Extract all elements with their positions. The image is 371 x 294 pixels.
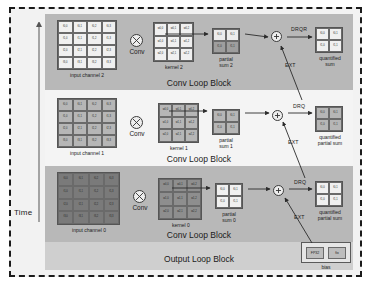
- matrix-cell: f0,0: [316, 107, 329, 119]
- matrix-cell: w2,0: [154, 48, 167, 61]
- quantified-partial-sum-caption-1: quantified partial sum: [305, 134, 355, 147]
- matrix-cell: f1,0: [316, 194, 329, 206]
- bias-box: FP32 fix: [301, 242, 351, 263]
- matrix-cell: w2,0: [159, 129, 172, 142]
- matrix-cell: f0,0: [213, 110, 226, 122]
- matrix-cell: w0,1: [173, 179, 187, 192]
- matrix-cell: w0,2: [187, 179, 201, 192]
- quantified-sum-matrix-2: f0,0f0,1f1,0f1,1: [315, 27, 343, 53]
- matrix-cell: f1,1: [73, 111, 88, 123]
- matrix-cell: f1,2: [87, 111, 102, 123]
- kernel-matrix-2: w0,0w0,1w0,2w1,0w1,1w1,2w2,0w2,1w2,2: [153, 22, 194, 62]
- matrix-cell: w0,2: [185, 104, 198, 117]
- matrix-cell: f2,0: [58, 45, 73, 57]
- matrix-cell: w2,1: [167, 48, 180, 61]
- matrix-cell: f3,3: [102, 135, 117, 147]
- matrix-cell: w0,1: [167, 23, 180, 36]
- matrix-cell: f2,2: [87, 45, 102, 57]
- edge-label-ext-2: EXT: [285, 62, 296, 68]
- matrix-cell: f1,0: [216, 196, 229, 208]
- matrix-cell: f2,0: [58, 123, 73, 135]
- matrix-cell: f0,0: [213, 29, 226, 41]
- matrix-cell: f1,3: [104, 186, 119, 199]
- matrix-cell: w0,0: [159, 104, 172, 117]
- matrix-cell: w2,0: [159, 206, 173, 219]
- matrix-cell: f2,3: [102, 123, 117, 135]
- matrix-cell: f0,2: [87, 21, 102, 33]
- matrix-cell: w2,2: [180, 48, 193, 61]
- matrix-cell: f1,1: [226, 41, 239, 53]
- matrix-cell: f1,1: [329, 194, 342, 206]
- kernel-matrix-0: w0,0w0,1w0,2w1,0w1,1w1,2w2,0w2,1w2,2: [158, 178, 202, 220]
- matrix-cell: w2,1: [172, 129, 185, 142]
- bias-cell-fix: fix: [328, 247, 346, 259]
- bias-cell-fp32: FP32: [306, 247, 324, 259]
- matrix-cell: f1,3: [102, 33, 117, 45]
- kernel-matrix-1: w0,0w0,1w0,2w1,0w1,1w1,2w2,0w2,1w2,2: [158, 103, 199, 143]
- edge-label-ext-1: EXT: [288, 139, 299, 145]
- quantified-sum-caption-2: quantified sum: [307, 55, 353, 68]
- edge-label-ext-0: EXT: [294, 214, 305, 220]
- matrix-cell: w0,0: [154, 23, 167, 36]
- output-loop-block: Conv Loop Block f0,0f0,1f0,2f0,3f1,0f1,1…: [45, 14, 353, 270]
- matrix-cell: f2,1: [73, 123, 88, 135]
- matrix-cell: f2,2: [89, 199, 104, 212]
- conv-operator-label-0: Conv: [126, 204, 154, 211]
- matrix-cell: f2,3: [104, 199, 119, 212]
- matrix-cell: f3,2: [89, 211, 104, 224]
- partial-sum-matrix-2: f0,0f0,1f1,0f1,1: [212, 28, 240, 54]
- matrix-cell: f0,1: [226, 29, 239, 41]
- input-feature-map-2: f0,0f0,1f0,2f0,3f1,0f1,1f1,2f1,3f2,0f2,1…: [57, 20, 117, 70]
- edge-label-drq-1: DRQ: [293, 103, 305, 109]
- kernel-caption-2: kernel 2: [148, 64, 200, 70]
- matrix-cell: f3,1: [73, 135, 88, 147]
- conv-operator-1: [130, 116, 143, 129]
- matrix-cell: f3,0: [58, 135, 73, 147]
- matrix-cell: f0,3: [102, 99, 117, 111]
- matrix-cell: f1,2: [89, 186, 104, 199]
- matrix-cell: f0,3: [102, 21, 117, 33]
- edge-label-drqr-2: DRQR: [291, 26, 307, 32]
- matrix-cell: f0,1: [226, 110, 239, 122]
- matrix-cell: f1,0: [58, 186, 73, 199]
- conv-loop-block-0: Conv Loop Block f0,0f0,1f0,2f0,3f1,0f1,1…: [45, 166, 353, 242]
- partial-sum-caption-1: partial sum 1: [204, 137, 248, 150]
- matrix-cell: f1,2: [87, 33, 102, 45]
- matrix-cell: w1,2: [180, 36, 193, 49]
- input-feature-map-1: f0,0f0,1f0,2f0,3f1,0f1,1f1,2f1,3f2,0f2,1…: [57, 98, 117, 148]
- quantified-partial-sum-caption-0: quantified partial sum: [305, 209, 355, 222]
- matrix-cell: w1,0: [154, 36, 167, 49]
- matrix-cell: f1,1: [229, 196, 242, 208]
- matrix-cell: f0,1: [329, 182, 342, 194]
- matrix-cell: f1,0: [316, 40, 329, 52]
- matrix-cell: f1,0: [58, 33, 73, 45]
- matrix-cell: f0,0: [316, 28, 329, 40]
- conv-operator-0: [133, 190, 146, 203]
- matrix-cell: w1,1: [167, 36, 180, 49]
- input-channel-caption-2: input channel 2: [47, 72, 127, 78]
- conv-loop-block-label-2: Conv Loop Block: [45, 78, 353, 88]
- input-channel-caption-1: input channel 1: [47, 150, 127, 156]
- edge-label-drq-0: DRQ: [294, 179, 306, 185]
- matrix-cell: f0,1: [73, 173, 88, 186]
- matrix-cell: f0,0: [216, 184, 229, 196]
- matrix-cell: f1,3: [102, 111, 117, 123]
- matrix-cell: f0,0: [316, 182, 329, 194]
- matrix-cell: f0,3: [104, 173, 119, 186]
- matrix-cell: f3,2: [87, 57, 102, 69]
- kernel-caption-0: kernel 0: [155, 222, 207, 228]
- matrix-cell: f3,3: [104, 211, 119, 224]
- matrix-cell: f0,1: [73, 99, 88, 111]
- matrix-cell: w2,2: [185, 129, 198, 142]
- matrix-cell: w1,1: [173, 192, 187, 205]
- partial-sum-caption-0: partial sum 0: [207, 211, 251, 224]
- matrix-cell: w0,2: [180, 23, 193, 36]
- kernel-caption-1: kernel 1: [153, 145, 205, 151]
- matrix-cell: w1,2: [185, 117, 198, 130]
- diagram-canvas: Time Conv Loop Block f0,0f0,1f0,2f0,3f1,…: [0, 0, 371, 294]
- matrix-cell: f1,0: [213, 122, 226, 134]
- matrix-cell: f0,0: [58, 173, 73, 186]
- matrix-cell: w0,1: [172, 104, 185, 117]
- matrix-cell: w2,1: [173, 206, 187, 219]
- quantified-partial-sum-matrix-1: f0,0f0,1f1,0f1,1: [315, 106, 343, 132]
